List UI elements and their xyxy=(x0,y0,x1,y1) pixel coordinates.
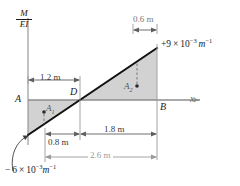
area-label-a1: A1 xyxy=(46,104,55,115)
diagram-canvas xyxy=(0,0,240,186)
y-axis-label-denominator: EI xyxy=(16,20,32,29)
value-label-bottom-left: − 6 × 10−3m−1 xyxy=(5,166,56,176)
value-bottom-base: 10 xyxy=(26,165,36,175)
value-bottom-exponent: −3 xyxy=(36,163,43,170)
area-label-a1-sub: 1 xyxy=(52,108,55,115)
area-label-a2-sub: 2 xyxy=(130,86,133,93)
value-top-exponent: −3 xyxy=(190,37,197,44)
dim-0-6m-arrow xyxy=(133,28,157,33)
x-axis-label: x xyxy=(190,94,194,104)
point-label-a: A xyxy=(15,94,21,104)
dim-0-8m-label: 0.8 m xyxy=(48,138,69,147)
value-bottom-mantissa: 6 xyxy=(12,165,17,175)
dim-0-8m-arrow xyxy=(45,132,80,137)
x-axis-arrowhead xyxy=(194,98,200,102)
value-bottom-times: × xyxy=(19,165,24,175)
dim-1-2m-label: 1.2 m xyxy=(40,73,61,82)
value-label-top-right: +9 × 10−3 m−1 xyxy=(161,40,212,50)
value-top-mantissa: 9 xyxy=(166,39,171,49)
value-top-times: × xyxy=(173,39,178,49)
dim-1-8m-label: 1.8 m xyxy=(104,125,125,134)
dim-2-6m-label: 2.6 m xyxy=(88,151,113,160)
y-axis-label: M EI xyxy=(16,9,32,30)
centroid-dot-a2 xyxy=(135,84,139,88)
point-label-b: B xyxy=(160,102,166,112)
value-bottom-unit-exponent: −1 xyxy=(49,163,56,170)
value-top-unit-exponent: −1 xyxy=(205,37,212,44)
area-label-a2: A2 xyxy=(124,82,133,93)
mei-diagram-figure: M EI A D B x A1 A2 1.2 m 0.6 m 0.8 m 1.8… xyxy=(0,0,240,186)
value-top-base: 10 xyxy=(180,39,190,49)
value-bottom-sign: − xyxy=(5,165,10,175)
y-axis-label-numerator: M xyxy=(16,9,32,18)
dim-0-6m-label: 0.6 m xyxy=(133,15,154,24)
point-label-d: D xyxy=(70,87,77,97)
